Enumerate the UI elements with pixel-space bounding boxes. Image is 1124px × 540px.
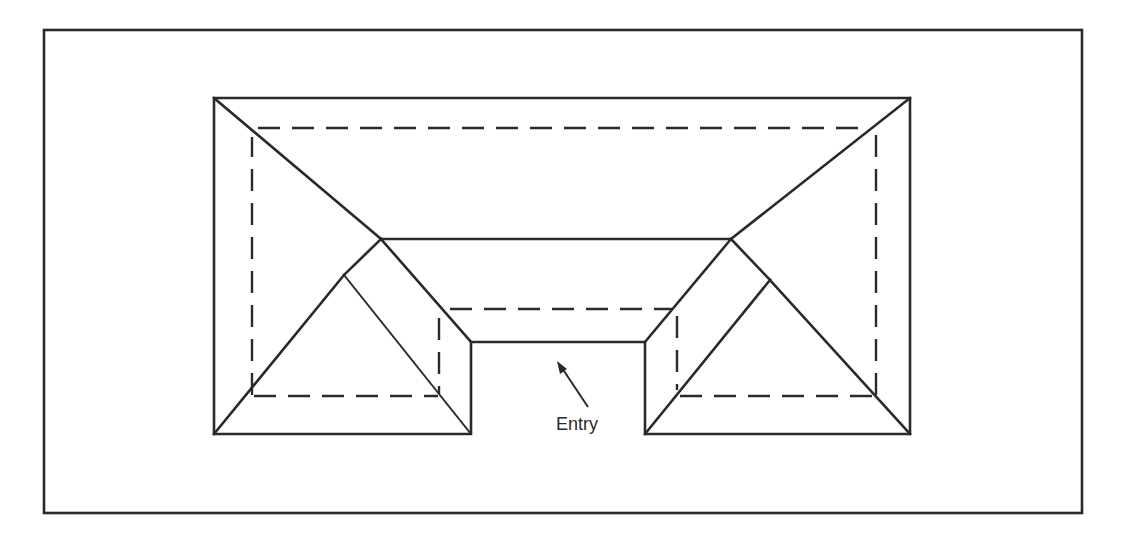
right-hip-outer <box>731 98 910 239</box>
right-hip-lower-right <box>770 280 910 434</box>
outer-frame <box>44 30 1082 513</box>
right-ridge-short <box>731 239 770 280</box>
roof-outline <box>214 98 910 434</box>
left-hip-lower-right <box>344 275 471 434</box>
right-hip-lower-left <box>645 280 770 434</box>
left-valley-inner <box>381 239 471 342</box>
left-hip-lower-left <box>214 275 344 434</box>
roof-plan-diagram <box>0 0 1124 540</box>
left-ridge-short <box>344 239 381 275</box>
left-hip-outer <box>214 98 381 239</box>
entry-arrow-shaft <box>562 368 588 407</box>
right-valley-inner <box>645 239 731 342</box>
entry-label: Entry <box>556 414 598 435</box>
